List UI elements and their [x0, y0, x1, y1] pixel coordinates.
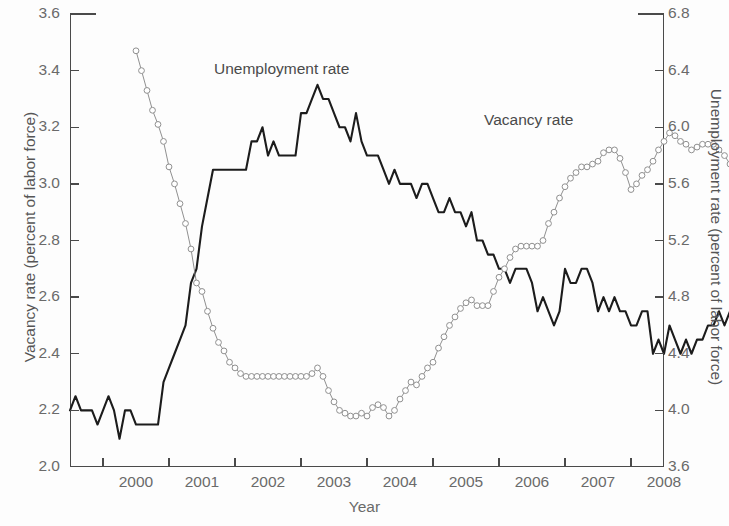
x-axis-tick-label: 2000	[106, 473, 166, 491]
x-axis-tick-label: 2002	[238, 473, 298, 491]
series-marker	[573, 170, 579, 176]
series-marker	[524, 243, 530, 249]
series-marker	[441, 334, 447, 340]
right-axis-title: Unemployment rate (percent of labor forc…	[707, 57, 725, 417]
left-axis-tick	[70, 70, 79, 71]
series-marker	[650, 158, 656, 164]
series-marker	[474, 303, 480, 309]
series-marker	[375, 402, 381, 408]
series-marker	[298, 374, 304, 380]
series-marker	[469, 297, 475, 303]
right-axis-tick	[655, 410, 664, 411]
series-marker	[568, 175, 574, 181]
series-marker	[254, 374, 260, 380]
series-marker	[436, 345, 442, 351]
series-marker	[172, 181, 178, 187]
series-marker	[491, 289, 497, 295]
series-marker	[397, 396, 403, 402]
series-marker	[452, 314, 458, 320]
x-axis-tick-label: 2004	[370, 473, 430, 491]
series-marker	[458, 306, 464, 312]
series-marker	[265, 374, 271, 380]
series-unemployment-rate	[70, 28, 729, 439]
left-axis-tick	[70, 410, 79, 411]
series-marker	[166, 164, 172, 170]
series-marker	[700, 141, 706, 147]
series-marker	[337, 407, 343, 413]
series-marker	[430, 359, 436, 365]
series-marker	[287, 374, 293, 380]
series-marker	[309, 371, 315, 377]
series-marker	[282, 374, 288, 380]
x-axis-tick	[234, 458, 235, 467]
series-marker	[480, 303, 486, 309]
series-marker	[243, 374, 249, 380]
series-marker	[210, 325, 216, 331]
series-marker	[463, 300, 469, 306]
series-marker	[188, 246, 194, 252]
x-axis-tick-label: 2006	[502, 473, 562, 491]
series-marker	[645, 167, 651, 173]
series-marker	[546, 221, 552, 227]
series-marker	[353, 413, 359, 419]
series-marker	[238, 371, 244, 377]
series-marker	[177, 201, 183, 207]
series-marker	[370, 405, 376, 411]
x-axis-tick	[630, 458, 631, 467]
left-axis-tick	[70, 353, 79, 354]
series-line	[70, 28, 729, 439]
series-layer	[0, 0, 729, 526]
series-marker	[194, 280, 200, 286]
left-axis-tick	[70, 127, 79, 128]
series-marker	[331, 399, 337, 405]
x-axis-tick	[300, 458, 301, 467]
x-axis-tick-label: 2007	[568, 473, 628, 491]
annotation-vacancy-rate: Vacancy rate	[484, 111, 573, 129]
series-marker	[634, 181, 640, 187]
series-marker	[551, 209, 557, 215]
x-axis-tick	[432, 458, 433, 467]
series-marker	[694, 144, 700, 150]
series-marker	[315, 365, 321, 371]
series-marker	[293, 374, 299, 380]
left-axis-tick	[70, 183, 79, 184]
series-marker	[304, 374, 310, 380]
left-axis-tick	[70, 296, 79, 297]
series-marker	[639, 172, 645, 178]
series-marker	[656, 147, 662, 153]
right-axis-tick	[655, 70, 664, 71]
series-marker	[535, 243, 541, 249]
right-axis-tick	[655, 127, 664, 128]
x-axis-tick-label: 2008	[634, 473, 694, 491]
series-marker	[386, 413, 392, 419]
series-marker	[232, 365, 238, 371]
x-axis-tick-label: 2001	[172, 473, 232, 491]
series-marker	[419, 374, 425, 380]
series-marker	[485, 303, 491, 309]
series-marker	[359, 410, 365, 416]
series-marker	[623, 170, 629, 176]
series-marker	[221, 348, 227, 354]
series-marker	[518, 243, 524, 249]
series-marker	[628, 187, 634, 193]
series-marker	[584, 164, 590, 170]
series-marker	[249, 374, 255, 380]
series-marker	[161, 139, 167, 145]
series-marker	[601, 150, 607, 156]
series-marker	[381, 405, 387, 411]
series-marker	[425, 365, 431, 371]
series-marker	[689, 147, 695, 153]
left-axis-tick	[70, 240, 79, 241]
x-axis-tick	[366, 458, 367, 467]
series-marker	[502, 266, 508, 272]
series-marker	[683, 141, 689, 147]
series-marker	[260, 374, 266, 380]
series-marker	[364, 413, 370, 419]
x-axis-tick	[564, 458, 565, 467]
series-marker	[342, 410, 348, 416]
x-axis-tick-label: 2003	[304, 473, 364, 491]
series-marker	[155, 122, 161, 128]
left-axis-title: Vacancy rate (percent of labor force)	[21, 57, 39, 417]
series-vacancy-rate	[133, 48, 729, 419]
series-marker	[150, 107, 156, 113]
